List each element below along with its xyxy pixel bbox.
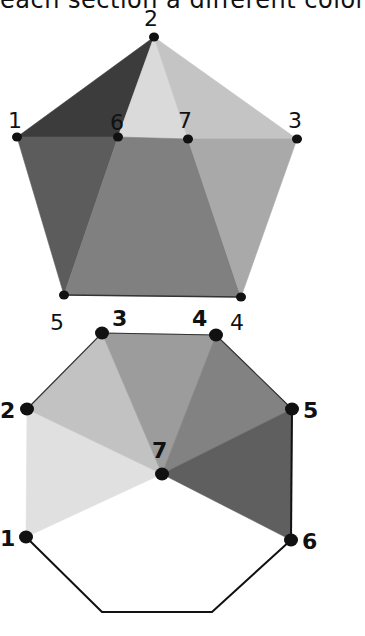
pentagon-vertex-4-label: 4	[230, 310, 244, 335]
octagon-vertex-5-label: 5	[303, 398, 318, 423]
pentagon-vertex-1-dot	[12, 133, 22, 142]
octagon-vertex-3-label: 3	[112, 306, 127, 331]
pentagon-vertex-3-label: 3	[288, 108, 302, 133]
pentagon-vertex-4-dot	[236, 293, 246, 302]
octagon-vertex-7-dot	[155, 468, 169, 481]
octagon-vertex-1-dot	[19, 531, 33, 544]
octagon-vertex-4-label: 4	[192, 306, 207, 331]
octagon-vertex-4-dot	[209, 329, 223, 342]
octagon-vertex-2-label: 2	[0, 398, 15, 423]
pentagon-vertex-2-label: 2	[144, 6, 158, 31]
octagon-vertex-6-label: 6	[302, 529, 317, 554]
pentagon-sections	[17, 37, 297, 297]
octagon-vertex-2-dot	[20, 403, 34, 416]
octagon-vertex-7-label: 7	[152, 438, 167, 463]
octagon-vertex-6-dot	[284, 534, 298, 547]
pentagon-vertex-2-dot	[149, 33, 159, 42]
octagon-vertex-5-dot	[285, 403, 299, 416]
pentagon-vertex-7-dot	[183, 135, 193, 144]
octagon-outline-bottom	[26, 537, 291, 612]
octagon-outline-right	[291, 409, 292, 540]
octagon-vertex-3-dot	[95, 327, 109, 340]
pentagon-vertex-6-label: 6	[110, 110, 124, 135]
octagon-vertex-1-label: 1	[0, 526, 15, 551]
pentagon-vertex-7-label: 7	[178, 108, 192, 133]
octagon-sections	[26, 333, 292, 540]
pentagon-vertex-3-dot	[292, 135, 302, 144]
pentagon-vertex-1-label: 1	[8, 108, 22, 133]
pentagon-vertex-5-dot	[59, 291, 69, 300]
pentagon-vertex-5-label: 5	[50, 310, 64, 335]
